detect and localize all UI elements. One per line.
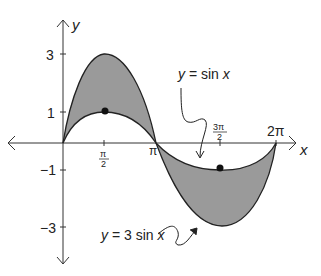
y-tick-label-1: 1 xyxy=(47,105,55,121)
y-tick-label-m1: −1 xyxy=(40,162,56,178)
x-tick-label-pi2-den: 2 xyxy=(101,159,106,169)
y-tick-label-m3: −3 xyxy=(40,220,56,236)
x-axis-label: x xyxy=(299,141,308,158)
x-tick-label-pi2-num: π xyxy=(100,149,106,159)
x-tick-label-3pi2-den: 2 xyxy=(217,132,222,142)
sine-graph: y x 3 1 −1 −3 π 2 π 3π 2 2π y = sin x y … xyxy=(0,0,321,276)
x-tick-label-2pi: 2π xyxy=(267,123,285,139)
x-tick-label-pi: π xyxy=(149,144,157,158)
pointer-3sinx-arrowhead xyxy=(190,228,197,235)
y-tick-label-3: 3 xyxy=(46,47,54,63)
pointer-sinx xyxy=(181,88,206,157)
point-pi2-1 xyxy=(102,108,109,115)
x-tick-label-3pi2-num: 3π xyxy=(213,122,224,132)
shaded-region-positive xyxy=(63,54,156,143)
label-sinx: y = sin x xyxy=(177,66,231,82)
label-3sinx: y = 3 sin x xyxy=(100,227,165,243)
point-3pi2-m1 xyxy=(217,165,224,172)
y-axis-label: y xyxy=(71,16,81,33)
